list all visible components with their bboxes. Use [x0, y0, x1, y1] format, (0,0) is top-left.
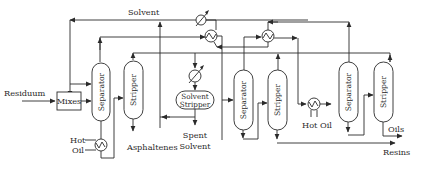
heat-exchanger-icon-2 — [262, 30, 274, 42]
svg-text:Stripper: Stripper — [273, 84, 282, 117]
cooler-icon — [196, 10, 209, 26]
heat-exchanger-icon — [205, 30, 217, 42]
svg-text:Mixes: Mixes — [57, 96, 82, 106]
oils-label: Oils — [388, 124, 404, 134]
separator-3: Separator — [339, 62, 358, 122]
mixer: Mixes — [57, 92, 82, 110]
hot-oil-label-2: Hot Oil — [302, 120, 332, 130]
svg-text:Separator: Separator — [97, 72, 106, 111]
resins-label: Resins — [383, 147, 410, 157]
cooler-icon-2 — [189, 65, 204, 83]
svg-text:Stripper: Stripper — [129, 74, 138, 107]
stripper-3: Stripper — [374, 62, 393, 122]
hot-oil-label-1b: Oil — [72, 145, 84, 155]
heater-icon-2 — [308, 98, 320, 110]
separator-1: Separator — [92, 63, 110, 121]
solvent-label: Solvent — [128, 7, 160, 17]
svg-text:Stripper: Stripper — [180, 100, 211, 109]
stripper-2: Stripper — [268, 70, 287, 130]
heater-icon — [95, 139, 107, 151]
separator-2: Separator — [234, 70, 253, 130]
stripper-1: Stripper — [124, 61, 143, 119]
spent-solvent-label: Solvent — [179, 141, 211, 151]
hot-oil-label-1: Hot — [70, 135, 86, 145]
solvent-stripper: Solvent Stripper — [176, 91, 214, 109]
svg-text:Stripper: Stripper — [379, 76, 388, 109]
asphaltenes-label: Asphaltenes — [126, 142, 178, 152]
residuum-label: Residuum — [4, 88, 46, 98]
svg-text:Separator: Separator — [239, 80, 248, 119]
process-flow-diagram: Solvent — [0, 0, 426, 169]
svg-text:Separator: Separator — [344, 72, 353, 111]
spent-label: Spent — [183, 130, 208, 140]
